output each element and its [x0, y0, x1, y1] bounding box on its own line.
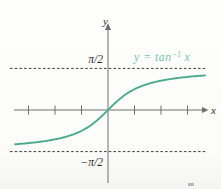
plot-canvas: y x π/2 −π/2 y = tan−1 x: [0, 0, 221, 189]
asymptote-top-label: π/2: [88, 53, 103, 65]
curve-equation-label: y = tan−1 x: [133, 50, 190, 65]
x-axis-arrow-icon: [202, 107, 209, 113]
scan-smudge: [188, 183, 194, 186]
equation-superscript: −1: [172, 50, 181, 59]
x-axis-label: x: [210, 104, 216, 116]
asymptote-bottom-label: −π/2: [81, 156, 104, 168]
y-axis-label: y: [102, 15, 108, 27]
equation-prefix: y = tan: [133, 51, 172, 64]
arctan-figure: y x π/2 −π/2 y = tan−1 x: [0, 0, 221, 189]
equation-suffix: x: [181, 51, 190, 63]
